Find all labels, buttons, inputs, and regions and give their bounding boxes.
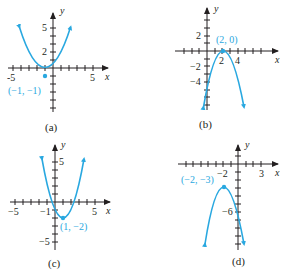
y-tick-label: 5 (59, 156, 64, 167)
y-tick-label: −4 (190, 76, 201, 87)
y-axis-label: y (59, 5, 65, 16)
graph-c: −5 −1 5 5 −5 x y (1, −2) (c) (8, 139, 111, 270)
graph-a: -5 5 5 2 x y (−1, −1) (a) (7, 5, 110, 134)
x-tick-label: 4 (235, 55, 240, 66)
x-axis-label: x (104, 71, 110, 82)
x-tick-label: -5 (7, 72, 15, 83)
graph-d: −2 3 −6 x y (−2, −3) (d) (178, 139, 280, 268)
y-axis-label: y (213, 3, 219, 14)
graph-caption: (d) (232, 255, 245, 268)
x-tick-label: 3 (259, 168, 264, 179)
vertex-label: (1, −2) (60, 221, 87, 233)
vertex-point (221, 49, 225, 53)
x-tick-label: −2 (217, 168, 228, 179)
y-tick-label: −5 (39, 236, 50, 247)
vertex-point (61, 216, 65, 220)
graph-caption: (c) (48, 257, 61, 270)
y-axis-label: y (244, 139, 250, 150)
vertex-label: (−2, −3) (181, 174, 214, 186)
vertex-point (222, 185, 226, 189)
vertex-point (43, 74, 47, 78)
y-tick-label: 2 (42, 46, 47, 57)
y-tick-label: −2 (190, 61, 201, 72)
x-tick-label: −5 (8, 206, 19, 217)
vertex-label: (2, 0) (216, 34, 238, 46)
x-tick-label: 5 (92, 206, 97, 217)
x-axis-label: x (274, 54, 280, 65)
graph-caption: (a) (45, 121, 58, 134)
x-tick-label: 5 (90, 72, 95, 83)
x-axis-label: x (105, 205, 111, 216)
graph-caption: (b) (199, 118, 212, 131)
vertex-label: (−1, −1) (8, 85, 41, 97)
x-tick-label: −1 (40, 206, 51, 217)
y-axis-label: y (60, 139, 66, 150)
y-tick-label: 2 (196, 30, 201, 41)
parabola-figure: -5 5 5 2 x y (−1, −1) (a) 2 4 2 −2 −4 (0, 0, 291, 277)
y-tick-label: −6 (222, 206, 233, 217)
x-tick-label: 2 (219, 55, 224, 66)
x-axis-label: x (274, 167, 280, 178)
y-tick-label: 5 (42, 22, 47, 33)
graph-b: 2 4 2 −2 −4 x y (2, 0) (b) (175, 3, 280, 131)
